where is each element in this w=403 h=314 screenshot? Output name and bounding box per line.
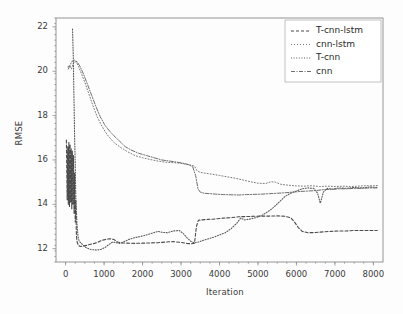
legend-label-t-cnn: T-cnn xyxy=(316,52,340,62)
y-tick-label: 12 xyxy=(22,243,48,253)
series-line-t-cnn-lstm xyxy=(66,140,377,246)
x-tick-label: 7000 xyxy=(315,269,355,279)
x-tick-label: 5000 xyxy=(238,269,278,279)
x-tick-label: 4000 xyxy=(200,269,240,279)
x-tick-label: 6000 xyxy=(276,269,316,279)
x-tick-label: 2000 xyxy=(123,269,163,279)
y-tick-label: 14 xyxy=(22,198,48,208)
y-tick-label: 16 xyxy=(22,154,48,164)
chart-figure: RMSE Iteration 1214161820220100020003000… xyxy=(0,0,403,314)
y-tick-label: 22 xyxy=(22,21,48,31)
y-tick-label: 20 xyxy=(22,65,48,75)
x-tick-label: 8000 xyxy=(353,269,393,279)
x-tick-label: 3000 xyxy=(161,269,201,279)
legend-label-t-cnn-lstm: T-cnn-lstm xyxy=(316,25,363,35)
y-tick-label: 18 xyxy=(22,110,48,120)
x-tick-label: 1000 xyxy=(84,269,124,279)
x-tick-label: 0 xyxy=(46,269,86,279)
legend-label-cnn: cnn xyxy=(316,66,332,76)
legend-label-cnn-lstm: cnn-lstm xyxy=(316,39,355,49)
x-axis-label: Iteration xyxy=(150,287,300,297)
